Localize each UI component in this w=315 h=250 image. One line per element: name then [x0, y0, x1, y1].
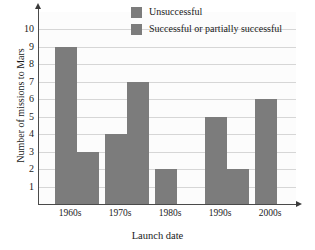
x-axis-line	[38, 204, 298, 205]
legend-item-successful: Successful or partially successful	[131, 23, 282, 35]
x-tick-1970s: 1970s	[95, 208, 145, 219]
legend-swatch-icon	[131, 7, 142, 18]
x-tick-1990s: 1990s	[195, 208, 245, 219]
bar-2000s-successful	[255, 99, 277, 204]
bar-chart: 10 9 8 7 6 5 4 3 2 1 1960s 1970s 1980s 1…	[0, 0, 315, 250]
bar-1970s-successful	[127, 82, 149, 204]
x-tick-1980s: 1980s	[145, 208, 195, 219]
y-axis-arrow-icon	[35, 3, 41, 9]
x-axis-arrow-icon	[296, 201, 302, 207]
bar-1980s-unsuccessful	[155, 169, 177, 204]
legend-swatch-icon	[131, 24, 142, 35]
x-axis-title: Launch date	[0, 230, 315, 241]
bar-1960s-unsuccessful	[55, 47, 77, 204]
x-tick-1960s: 1960s	[45, 208, 95, 219]
bar-1970s-unsuccessful	[105, 134, 127, 204]
legend-label-unsuccessful: Unsuccessful	[149, 6, 202, 18]
bar-1960s-successful	[77, 152, 99, 204]
legend-label-successful: Successful or partially successful	[149, 23, 282, 35]
legend: Unsuccessful Successful or partially suc…	[131, 6, 282, 40]
plot-area	[38, 12, 296, 204]
bar-1990s-unsuccessful	[205, 117, 227, 204]
legend-item-unsuccessful: Unsuccessful	[131, 6, 282, 18]
y-axis-line	[38, 8, 39, 204]
y-axis-title: Number of missions to Mars	[15, 26, 26, 186]
bar-1990s-successful	[227, 169, 249, 204]
x-tick-2000s: 2000s	[245, 208, 295, 219]
